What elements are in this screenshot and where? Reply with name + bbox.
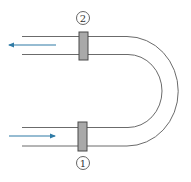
u-bend-pipe-diagram: 2 1 (0, 0, 191, 182)
pipe-outer-wall (22, 37, 178, 147)
svg-text:2: 2 (80, 13, 86, 24)
station-2-label: 2 (77, 12, 90, 25)
flange-station-2 (79, 32, 88, 60)
station-1-label: 1 (77, 157, 90, 170)
flange-station-1 (78, 122, 87, 151)
svg-text:1: 1 (80, 158, 86, 169)
pipe-inner-wall (22, 55, 162, 128)
